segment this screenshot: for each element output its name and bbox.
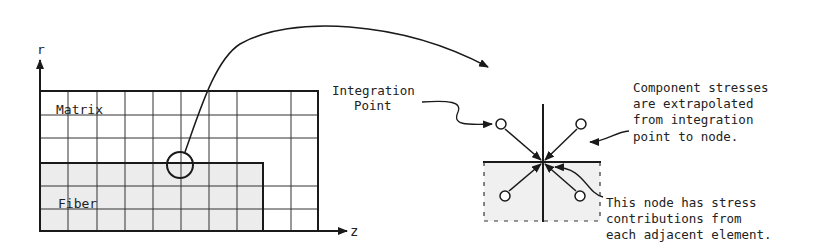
- svg-text:contributions from: contributions from: [606, 211, 741, 226]
- svg-text:from integration: from integration: [633, 112, 753, 127]
- svg-text:This node has stress: This node has stress: [606, 195, 757, 210]
- integration-point-tr: [576, 119, 586, 129]
- fiber-label: Fiber: [58, 196, 97, 211]
- integration-point-bl: [500, 191, 510, 201]
- extrapolation-arrow-tl: [505, 129, 541, 160]
- axis-z-label: z: [350, 223, 358, 239]
- node-contribution-note: This node has stress contributions from …: [606, 195, 772, 242]
- integration-point-label-line1: Integration: [332, 83, 415, 98]
- svg-text:point to node.: point to node.: [633, 129, 738, 144]
- svg-text:Component stresses: Component stresses: [633, 80, 768, 95]
- component-stress-note: Component stresses are extrapolated from…: [633, 80, 768, 144]
- integration-point-br: [575, 191, 585, 201]
- integration-point-callout: [422, 101, 492, 124]
- extrapolation-arrow-tr: [545, 129, 577, 160]
- node-detail: [483, 104, 601, 222]
- svg-text:each adjacent element.: each adjacent element.: [606, 227, 772, 242]
- matrix-label: Matrix: [56, 102, 103, 117]
- fiber-matrix-stress-diagram: r z Matrix Fiber Integration Point Compo…: [0, 0, 814, 252]
- component-stress-callout: [590, 131, 629, 142]
- svg-text:are extrapolated: are extrapolated: [633, 96, 753, 111]
- integration-point-tl: [496, 119, 506, 129]
- axis-r-label: r: [37, 42, 45, 57]
- integration-point-label-line2: Point: [354, 98, 392, 113]
